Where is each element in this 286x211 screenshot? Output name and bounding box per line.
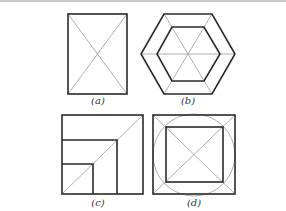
- panel-label-b: (b): [181, 95, 195, 106]
- panel-d: (d): [153, 114, 235, 208]
- diagonal-line: [62, 115, 143, 194]
- panel-label-c: (c): [91, 197, 105, 208]
- panel-label-d: (d): [187, 197, 201, 208]
- panel-c: (c): [62, 115, 143, 208]
- panel-a: (a): [68, 14, 127, 106]
- panel-label-a: (a): [91, 95, 105, 106]
- panel-b: (b): [141, 14, 235, 106]
- figure-canvas: (a) (b) (c) (d): [0, 0, 286, 211]
